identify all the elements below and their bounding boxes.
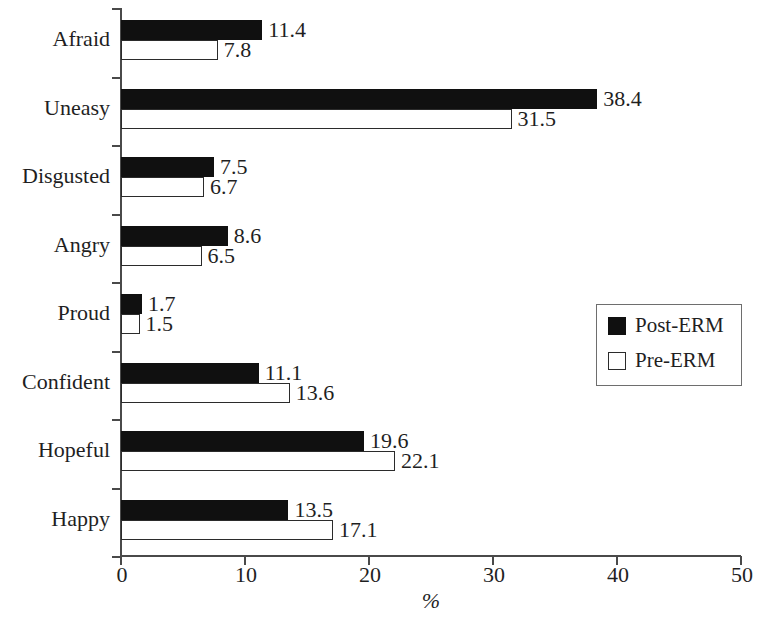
legend-label-pre-erm: Pre-ERM	[635, 350, 716, 371]
x-axis-title: %	[121, 588, 741, 614]
bar-disgusted-pre-erm	[121, 177, 204, 197]
legend-swatch-filled-square	[608, 317, 626, 335]
category-label-angry: Angry	[0, 234, 110, 256]
x-axis-tick-label: 0	[92, 562, 152, 588]
bar-value-label: 13.6	[296, 382, 335, 404]
category-label-uneasy: Uneasy	[0, 97, 110, 119]
bar-happy-pre-erm	[121, 520, 333, 540]
category-label-hopeful: Hopeful	[0, 439, 110, 461]
category-label-proud: Proud	[0, 302, 110, 324]
x-axis-tick-label: 30	[464, 562, 524, 588]
y-axis-tick	[112, 77, 121, 79]
bar-value-label: 1.5	[146, 313, 174, 335]
y-axis-tick	[112, 145, 121, 147]
x-axis-tick-label: 40	[588, 562, 648, 588]
bar-uneasy-pre-erm	[121, 109, 512, 129]
legend: Post-ERM Pre-ERM	[596, 304, 742, 386]
category-label-confident: Confident	[0, 371, 110, 393]
bar-happy-post-erm	[121, 500, 288, 520]
bar-value-label: 17.1	[339, 519, 378, 541]
bar-value-label: 11.4	[268, 19, 306, 41]
y-axis-tick	[112, 8, 121, 10]
bar-proud-pre-erm	[121, 314, 140, 334]
legend-swatch-outline-square	[608, 352, 626, 370]
legend-label-post-erm: Post-ERM	[635, 315, 724, 336]
bar-confident-post-erm	[121, 363, 259, 383]
bar-value-label: 6.5	[208, 245, 236, 267]
x-axis-tick-label: 10	[216, 562, 276, 588]
category-label-afraid: Afraid	[0, 28, 110, 50]
bar-value-label: 31.5	[518, 108, 557, 130]
y-axis-tick	[112, 419, 121, 421]
y-axis-tick	[112, 282, 121, 284]
x-axis-tick-label: 50	[712, 562, 757, 588]
bar-value-label: 13.5	[294, 499, 333, 521]
bar-value-label: 7.8	[224, 39, 252, 61]
bar-angry-pre-erm	[121, 246, 202, 266]
bar-proud-post-erm	[121, 294, 142, 314]
plot-area: 11.47.838.431.57.56.78.66.51.71.511.113.…	[121, 8, 741, 556]
bar-hopeful-pre-erm	[121, 451, 395, 471]
bar-confident-pre-erm	[121, 383, 290, 403]
bar-afraid-pre-erm	[121, 40, 218, 60]
legend-entry-pre-erm: Pre-ERM	[608, 350, 716, 371]
y-axis-tick	[112, 214, 121, 216]
bar-value-label: 22.1	[401, 450, 440, 472]
y-axis-tick	[112, 351, 121, 353]
bar-value-label: 8.6	[234, 225, 262, 247]
bar-value-label: 38.4	[603, 88, 642, 110]
category-label-disgusted: Disgusted	[0, 165, 110, 187]
bar-hopeful-post-erm	[121, 431, 364, 451]
y-axis-tick	[112, 488, 121, 490]
x-axis-tick-label: 20	[340, 562, 400, 588]
bar-disgusted-post-erm	[121, 157, 214, 177]
bar-value-label: 6.7	[210, 176, 238, 198]
category-label-happy: Happy	[0, 508, 110, 530]
legend-entry-post-erm: Post-ERM	[608, 315, 724, 336]
